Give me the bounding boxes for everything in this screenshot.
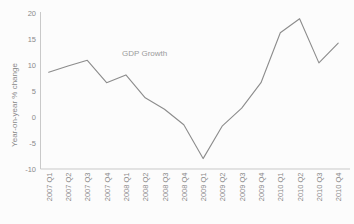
chart-canvas: 20151050-5-102007 Q12007 Q22007 Q32007 Q… xyxy=(0,0,354,224)
x-tick-label: 2008 Q4 xyxy=(180,173,189,202)
y-tick-label: 0 xyxy=(32,113,36,122)
x-tick-label: 2010 Q1 xyxy=(276,173,285,202)
x-tick-label: 2009 Q3 xyxy=(238,173,247,202)
x-tick-label: 2009 Q4 xyxy=(257,173,266,202)
x-tick-label: 2010 Q3 xyxy=(315,173,324,202)
series-label: GDP Growth xyxy=(122,49,167,58)
y-tick-label: 15 xyxy=(28,35,36,44)
y-tick-label: 5 xyxy=(32,87,36,96)
y-tick-label: 10 xyxy=(28,61,36,70)
y-axis-title: Year-on-year % change xyxy=(10,63,19,147)
x-tick-label: 2008 Q1 xyxy=(122,173,131,202)
y-tick-label: 20 xyxy=(28,9,36,18)
x-tick-label: 2010 Q2 xyxy=(296,173,305,202)
x-tick-label: 2007 Q4 xyxy=(103,173,112,202)
x-tick-label: 2007 Q2 xyxy=(64,173,73,202)
x-tick-label: 2008 Q3 xyxy=(161,173,170,202)
x-tick-label: 2009 Q2 xyxy=(218,173,227,202)
x-tick-label: 2009 Q1 xyxy=(199,173,208,202)
x-tick-label: 2007 Q3 xyxy=(83,173,92,202)
x-tick-label: 2007 Q1 xyxy=(45,173,54,202)
y-tick-label: -10 xyxy=(25,165,36,174)
y-tick-label: -5 xyxy=(29,139,36,148)
gdp-growth-chart: 20151050-5-102007 Q12007 Q22007 Q32007 Q… xyxy=(0,0,354,224)
x-tick-label: 2010 Q4 xyxy=(334,173,343,202)
x-tick-label: 2008 Q2 xyxy=(141,173,150,202)
gdp-growth-line xyxy=(49,19,339,159)
